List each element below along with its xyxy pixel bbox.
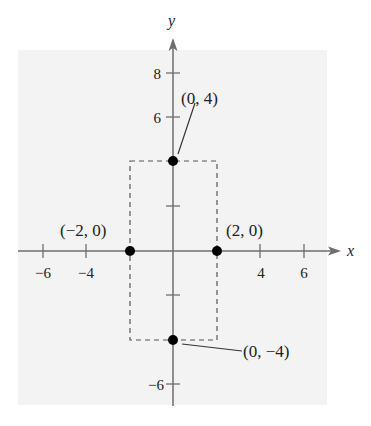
x-tick-label: −6 bbox=[35, 265, 51, 281]
y-tick-label: 8 bbox=[154, 66, 162, 82]
y-axis-label: y bbox=[166, 12, 176, 30]
x-axis-label: x bbox=[346, 242, 354, 259]
data-point bbox=[125, 246, 135, 256]
data-point bbox=[168, 156, 178, 166]
data-point bbox=[168, 335, 178, 345]
point-label: (0, 4) bbox=[181, 89, 218, 108]
coordinate-plane: x y −6 −4 4 6 8 6 −6 (0, 4) (−2, 0) (2, … bbox=[0, 0, 371, 426]
data-point bbox=[212, 246, 222, 256]
x-tick-label: 6 bbox=[300, 265, 308, 281]
point-label: (0, −4) bbox=[243, 342, 289, 361]
y-tick-label: 6 bbox=[154, 110, 162, 126]
x-tick-label: 4 bbox=[257, 265, 265, 281]
x-tick-label: −4 bbox=[78, 265, 94, 281]
y-tick-label: −6 bbox=[148, 377, 164, 393]
point-label: (2, 0) bbox=[226, 221, 263, 240]
point-label: (−2, 0) bbox=[60, 221, 106, 240]
